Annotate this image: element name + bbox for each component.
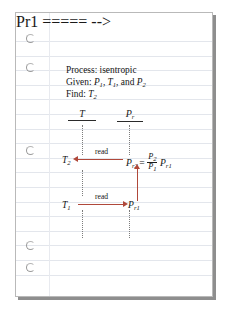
arrow-label-read-top: read: [95, 147, 108, 156]
vertical-transfer-arrow: [137, 168, 138, 201]
eq-fraction: P2 P1: [147, 153, 157, 172]
dotted-guide-pr-upper: [129, 125, 131, 155]
eq-factor: Pr1: [160, 157, 172, 169]
read-arrow-top: [77, 159, 123, 160]
arrow-head-left-icon: [73, 156, 78, 162]
notebook-page: Process: isentropic Given: P1, T1, and P…: [15, 12, 213, 297]
eq-fraction-denominator: P1: [147, 162, 157, 172]
page-content: Process: isentropic Given: P1, T1, and P…: [16, 13, 212, 296]
arrow-head-up-icon: [134, 164, 140, 169]
label-relative-pressure-1: Pr1: [128, 199, 140, 211]
note-line-given: Given: P1, T1, and P2: [66, 77, 146, 90]
label-temperature-1: T1: [62, 199, 71, 211]
arrow-label-read-bottom: read: [95, 192, 108, 201]
note-line-process: Process: isentropic: [66, 65, 137, 76]
read-arrow-bottom: [78, 204, 124, 205]
dotted-guide-temp-middle: [82, 170, 84, 196]
label-temperature-2: T2: [62, 154, 71, 166]
note-given-label: Given:: [66, 77, 92, 87]
notebook-sheet: Process: isentropic Given: P1, T1, and P…: [15, 12, 213, 297]
dotted-guide-pr-lower: [129, 210, 131, 238]
eq-fraction-numerator: P2: [147, 153, 157, 162]
equation-relative-pressure-2: Pr2 = P2 P1 Pr1: [126, 153, 172, 172]
note-process-value: isentropic: [100, 65, 137, 75]
find-var-t2-sub: 2: [93, 93, 96, 100]
dotted-guide-temp-lower: [82, 210, 84, 238]
given-sep-2: , and: [116, 77, 137, 87]
note-line-find: Find: T2: [66, 89, 97, 102]
dotted-guide-temp-upper: [82, 125, 84, 155]
table-header-temperature: T: [68, 108, 96, 121]
given-var-p2-sub: 2: [142, 81, 145, 88]
note-process-label: Process:: [66, 65, 97, 75]
table-header-relative-pressure: Pr: [117, 108, 143, 122]
note-find-label: Find:: [66, 89, 86, 99]
